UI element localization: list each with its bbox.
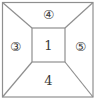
- left-trapezoid-label: ③: [10, 39, 21, 54]
- diagram-canvas: ④ ③ 1 ⑤ 4: [0, 0, 96, 101]
- right-trapezoid-label: ⑤: [75, 39, 86, 54]
- box-perspective-diagram: ④ ③ 1 ⑤ 4: [0, 0, 96, 101]
- diagonal-top-left: [3, 3, 33, 29]
- center-square-label: 1: [44, 38, 52, 53]
- diagonal-top-right: [65, 3, 93, 29]
- bottom-trapezoid-label: 4: [44, 73, 52, 88]
- diagonal-bottom-left: [3, 62, 33, 97]
- diagonal-bottom-right: [65, 62, 93, 97]
- top-trapezoid-label: ④: [43, 7, 54, 22]
